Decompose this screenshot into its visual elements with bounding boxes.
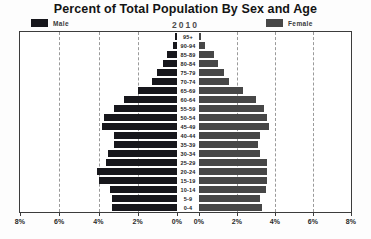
tick-right-4pct (275, 213, 276, 216)
female-row-80-84 (199, 59, 351, 68)
tick-right-6pct (313, 213, 314, 216)
age-label-90-94: 90-94 (177, 41, 199, 50)
female-row-10-14 (199, 185, 351, 194)
axis-label-right-0pct: 0% (194, 218, 205, 225)
age-label-70-74: 70-74 (177, 77, 199, 86)
bar-female-45-49 (199, 123, 269, 130)
axis-label-left-0pct: 0% (172, 218, 183, 225)
male-row-70-74 (20, 77, 177, 86)
bar-male-25-29 (106, 159, 177, 166)
tick-left-4pct (99, 213, 100, 216)
axis-label-left-8pct: 8% (15, 218, 26, 225)
female-row-55-59 (199, 104, 351, 113)
tick-left-8pct (20, 213, 21, 216)
age-label-50-54: 50-54 (177, 113, 199, 122)
female-row-20-24 (199, 167, 351, 176)
age-label-5-9: 5-9 (177, 194, 199, 203)
bar-female-85-89 (199, 51, 214, 58)
female-row-50-54 (199, 113, 351, 122)
male-row-80-84 (20, 59, 177, 68)
age-label-55-59: 55-59 (177, 104, 199, 113)
bar-male-15-19 (99, 177, 178, 184)
bar-male-30-34 (108, 150, 177, 157)
bar-male-45-49 (102, 123, 177, 130)
age-label-25-29: 25-29 (177, 158, 199, 167)
male-row-75-79 (20, 68, 177, 77)
legend-female: Female (266, 19, 313, 27)
age-label-40-44: 40-44 (177, 131, 199, 140)
bar-male-60-64 (124, 96, 177, 103)
female-row-15-19 (199, 176, 351, 185)
bar-male-0-4 (112, 204, 177, 211)
bar-female-75-79 (199, 69, 224, 76)
bar-male-65-69 (138, 87, 177, 94)
age-label-10-14: 10-14 (177, 185, 199, 194)
tick-left-6pct (59, 213, 60, 216)
bar-male-70-74 (152, 78, 178, 85)
male-row-20-24 (20, 167, 177, 176)
female-row-85-89 (199, 50, 351, 59)
male-row-50-54 (20, 113, 177, 122)
axis-label-right-8pct: 8% (346, 218, 357, 225)
female-row-60-64 (199, 95, 351, 104)
axis-label-left-6pct: 6% (54, 218, 65, 225)
tick-right-0pct (199, 213, 200, 216)
female-legend-swatch-icon (266, 19, 283, 27)
female-row-95+ (199, 32, 351, 41)
male-row-10-14 (20, 185, 177, 194)
female-row-25-29 (199, 158, 351, 167)
bar-female-40-44 (199, 132, 260, 139)
age-label-65-69: 65-69 (177, 86, 199, 95)
age-label-95+: 95+ (177, 32, 199, 41)
bar-female-15-19 (199, 177, 267, 184)
age-label-0-4: 0-4 (177, 203, 199, 212)
plot-area: 95+90-9485-8980-8475-7970-7465-6960-6455… (19, 31, 352, 213)
bar-female-5-9 (199, 195, 260, 202)
bar-female-70-74 (199, 78, 229, 85)
axis-label-left-4pct: 4% (93, 218, 104, 225)
bar-female-20-24 (199, 168, 267, 175)
female-row-70-74 (199, 77, 351, 86)
male-row-55-59 (20, 104, 177, 113)
female-row-65-69 (199, 86, 351, 95)
chart-title: Percent of Total Population By Sex and A… (0, 2, 371, 16)
bar-male-20-24 (97, 168, 177, 175)
age-label-80-84: 80-84 (177, 59, 199, 68)
bar-male-10-14 (110, 186, 177, 193)
tick-right-8pct (351, 213, 352, 216)
age-label-15-19: 15-19 (177, 176, 199, 185)
male-row-60-64 (20, 95, 177, 104)
male-row-85-89 (20, 50, 177, 59)
female-row-40-44 (199, 131, 351, 140)
bar-female-95+ (199, 33, 201, 40)
tick-left-0pct (177, 213, 178, 216)
bar-female-90-94 (199, 42, 205, 49)
bar-female-10-14 (199, 186, 266, 193)
bar-female-35-39 (199, 141, 258, 148)
bar-female-25-29 (199, 159, 267, 166)
female-row-5-9 (199, 194, 351, 203)
female-legend-label: Female (288, 20, 313, 27)
bar-female-80-84 (199, 60, 218, 67)
bar-female-65-69 (199, 87, 243, 94)
male-row-35-39 (20, 140, 177, 149)
age-label-35-39: 35-39 (177, 140, 199, 149)
age-label-20-24: 20-24 (177, 167, 199, 176)
bar-male-5-9 (112, 195, 177, 202)
bar-male-40-44 (114, 132, 177, 139)
bar-male-75-79 (157, 69, 177, 76)
age-label-30-34: 30-34 (177, 149, 199, 158)
tick-left-2pct (138, 213, 139, 216)
bar-female-30-34 (199, 150, 260, 157)
age-label-45-49: 45-49 (177, 122, 199, 131)
male-row-65-69 (20, 86, 177, 95)
chart-subtitle-year: 2010 (0, 20, 371, 30)
axis-label-left-2pct: 2% (132, 218, 143, 225)
male-row-40-44 (20, 131, 177, 140)
bar-female-60-64 (199, 96, 256, 103)
age-label-85-89: 85-89 (177, 50, 199, 59)
bar-male-85-89 (167, 51, 177, 58)
bar-male-55-59 (114, 105, 177, 112)
female-row-45-49 (199, 122, 351, 131)
male-row-0-4 (20, 203, 177, 212)
